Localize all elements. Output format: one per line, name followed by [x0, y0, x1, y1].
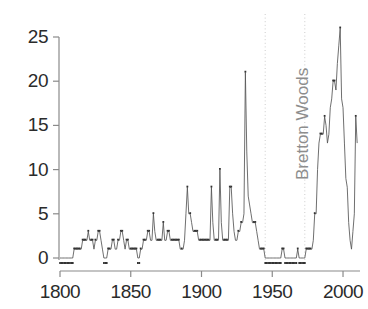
x-tick-label: 1800: [40, 281, 80, 303]
x-tick-label: 1900: [181, 281, 221, 303]
axis-lines: [59, 37, 360, 271]
bretton-woods-label: Bretton Woods: [293, 68, 313, 180]
x-tick-label: 1850: [111, 281, 151, 303]
x-tick-label: 1950: [252, 281, 292, 303]
zero-baseline-markers: [59, 262, 306, 264]
y-tick-label: 0: [0, 247, 48, 269]
chart-container: 0510152025 18001850190019502000 Bretton …: [0, 0, 368, 309]
x-tick-label: 2000: [323, 281, 363, 303]
data-series-markers: [73, 27, 356, 250]
y-tick-label: 15: [0, 114, 48, 136]
y-tick-label: 5: [0, 203, 48, 225]
y-tick-label: 20: [0, 70, 48, 92]
y-tick-label: 10: [0, 159, 48, 181]
x-tick-marks: [60, 271, 343, 277]
y-tick-marks: [53, 37, 59, 258]
y-tick-label: 25: [0, 26, 48, 48]
